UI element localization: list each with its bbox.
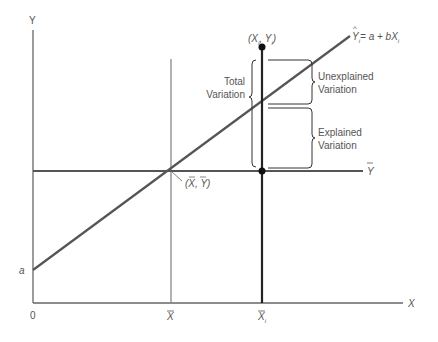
total-variation-label-line2: Variation [206, 89, 245, 100]
origin-label: 0 [30, 310, 36, 321]
total-variation-bracket [249, 60, 256, 167]
regression-line-label: Yi= a + bXi [352, 31, 400, 44]
explained-variation-bracket [268, 108, 315, 168]
explained-variation-label-line1: Explained [318, 127, 362, 138]
xi-tick-label: Xi [257, 311, 267, 324]
y-axis-label: Y [29, 15, 36, 26]
x-axis-label: X [407, 298, 415, 309]
explained-variation-label-line2: Variation [318, 140, 357, 151]
ybar-xi-point [259, 168, 266, 175]
xbar-tick-label: X [166, 311, 174, 322]
ybar-line-label: Y [367, 166, 375, 177]
total-variation-label-line1: Total [224, 76, 245, 87]
regression-diagram: Y X 0 a X Xi Yi= a + bXi ^ Y (Xi, Yi) (X… [0, 0, 438, 342]
unexplained-variation-label-line2: Variation [318, 84, 357, 95]
mean-point-leader [171, 171, 182, 181]
regression-line [33, 36, 350, 270]
observation-point [259, 44, 266, 51]
intercept-label: a [19, 265, 25, 276]
mean-point-label: (X, Y) [185, 178, 210, 189]
unexplained-variation-label-line1: Unexplained [318, 71, 374, 82]
yhat-hat-mark: ^ [353, 24, 357, 33]
